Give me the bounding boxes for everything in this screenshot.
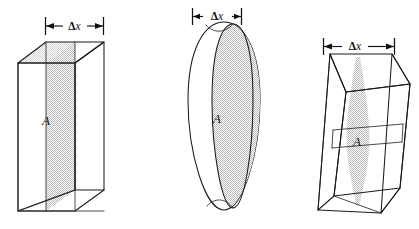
area-label-cylinder: A xyxy=(212,111,221,126)
dimension-delta-x-cylinder: Δx xyxy=(193,8,242,25)
dimension-delta-x-slanted: Δx xyxy=(324,38,395,55)
slanted-band-edge-right xyxy=(402,124,403,142)
area-label-slanted: A xyxy=(352,134,361,149)
cross-section-area-prism xyxy=(46,42,75,211)
dimension-label-slanted: Δx xyxy=(349,40,362,52)
volume-cross-section-figure: Δx A xyxy=(0,0,419,229)
dimension-label-prism: Δx xyxy=(68,19,81,31)
dimension-delta-x-prism: Δx xyxy=(46,17,104,35)
dimension-label-cylinder: Δx xyxy=(211,10,224,22)
prism-right-face xyxy=(75,42,104,190)
panel-prism: Δx A xyxy=(18,17,104,211)
panel-cylinder: Δx A xyxy=(188,8,262,210)
figure-container: Δx A xyxy=(0,0,419,229)
area-label-prism: A xyxy=(41,113,50,128)
slanted-front-face xyxy=(334,84,410,196)
slanted-band-edge-left xyxy=(332,130,333,148)
slanted-top-face xyxy=(330,54,410,92)
panel-slanted-prism: Δx A xyxy=(318,38,410,214)
